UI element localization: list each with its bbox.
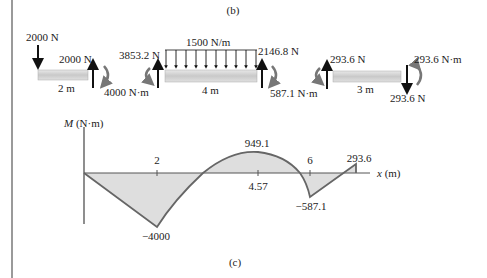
tick-label-457: 4.57 [248, 180, 268, 192]
moment-arrow-icon [146, 68, 150, 82]
moment-arrow-icon [104, 66, 108, 84]
moment-arrow-icon [316, 68, 320, 82]
y-axis-label: M (N·m) [63, 117, 104, 130]
length-label-2m: 2 m [58, 82, 75, 94]
beam-segment-2 [165, 70, 257, 82]
load-label-2000n-left: 2000 N [26, 31, 59, 43]
segment-1-free-body: 2000 N 2000 N 4000 N·m 2 m [26, 31, 149, 98]
moment-arrow-icon [417, 66, 421, 85]
value-label-min-587: −587.1 [296, 200, 327, 212]
value-label-min-4000: −4000 [142, 230, 171, 242]
distributed-load-label: 1500 N/m [186, 36, 231, 48]
distributed-load-arrows [166, 50, 256, 67]
load-label-293-right: 293.6 N [390, 92, 426, 104]
diagram-canvas: (b) 2000 N 2000 N 4000 N·m 2 m 3853.2 N [0, 0, 487, 278]
negative-area-1 [84, 173, 203, 227]
moment-label-293: 293.6 N·m [414, 53, 462, 65]
moment-arrow-icon [272, 66, 276, 84]
segment-3-free-body: 293.6 N 3 m 293.6 N 293.6 N·m [316, 53, 462, 104]
shear-label-293-left: 293.6 N [330, 53, 366, 65]
moment-label-4000: 4000 N·m [104, 86, 149, 98]
caption-c: (c) [229, 256, 242, 269]
moment-label-587: 587.1 N·m [270, 87, 318, 99]
tick-label-6: 6 [307, 154, 313, 166]
shear-label-segment-1: 2000 N [59, 53, 92, 65]
value-label-max-949: 949.1 [245, 137, 270, 149]
shear-label-2146: 2146.8 N [258, 45, 299, 57]
shear-label-3853: 3853.2 N [119, 49, 160, 61]
beam-segment-3 [333, 71, 401, 82]
length-label-3m: 3 m [357, 83, 374, 95]
beam-segment-1 [38, 70, 88, 80]
length-label-4m: 4 m [202, 84, 219, 96]
value-label-end-293: 293.6 [347, 152, 372, 164]
caption-b: (b) [227, 4, 240, 17]
tick-label-2: 2 [154, 154, 160, 166]
moment-diagram: M (N·m) x (m) 2 4.57 6 −4000 949.1 −587.… [63, 117, 401, 269]
x-axis-label: x (m) [376, 167, 401, 180]
